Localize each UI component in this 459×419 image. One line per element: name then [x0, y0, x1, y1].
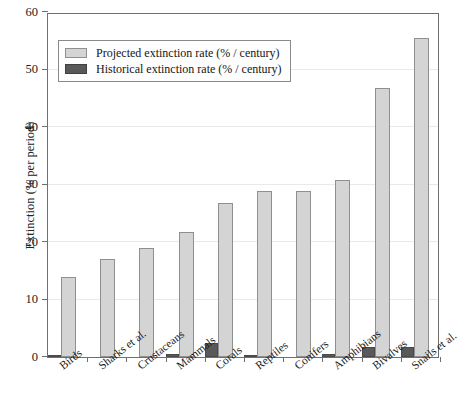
legend-swatch-projected — [65, 48, 87, 58]
x-tick — [322, 357, 323, 362]
x-tick — [87, 357, 88, 362]
y-tick — [42, 11, 48, 12]
y-tick-label: 20 — [4, 236, 38, 249]
legend-label: Projected extinction rate (% / century) — [96, 46, 280, 61]
bar-group — [401, 14, 440, 357]
bar-projected — [61, 277, 76, 358]
y-tick-label: 50 — [4, 63, 38, 76]
bar-group — [362, 14, 401, 357]
bar-projected — [375, 88, 390, 357]
bar-projected — [257, 191, 272, 357]
legend-item: Projected extinction rate (% / century) — [65, 45, 282, 61]
x-tick — [205, 357, 206, 362]
x-tick — [401, 357, 402, 362]
bar-group — [322, 14, 361, 357]
bar-historical — [244, 355, 257, 357]
x-tick — [126, 357, 127, 362]
y-tick-label: 40 — [4, 121, 38, 134]
bar-historical — [322, 354, 335, 357]
y-tick-label: 0 — [4, 351, 38, 364]
legend-swatch-historical — [65, 64, 87, 74]
x-tick — [440, 357, 441, 362]
chart-legend: Projected extinction rate (% / century)H… — [58, 40, 291, 82]
x-tick — [166, 357, 167, 362]
y-tick-label: 10 — [4, 293, 38, 306]
bar-projected — [296, 191, 311, 357]
legend-label: Historical extinction rate (% / century) — [96, 62, 282, 77]
bar-historical — [48, 355, 61, 357]
bar-projected — [335, 180, 350, 357]
x-tick — [283, 357, 284, 362]
y-tick-label: 30 — [4, 178, 38, 191]
bar-projected — [218, 203, 233, 357]
bar-projected — [100, 259, 115, 357]
x-tick — [244, 357, 245, 362]
bar-historical — [166, 354, 179, 357]
bar-projected — [414, 38, 429, 357]
y-tick-label: 60 — [4, 6, 38, 19]
legend-item: Historical extinction rate (% / century) — [65, 61, 282, 77]
x-tick — [362, 357, 363, 362]
